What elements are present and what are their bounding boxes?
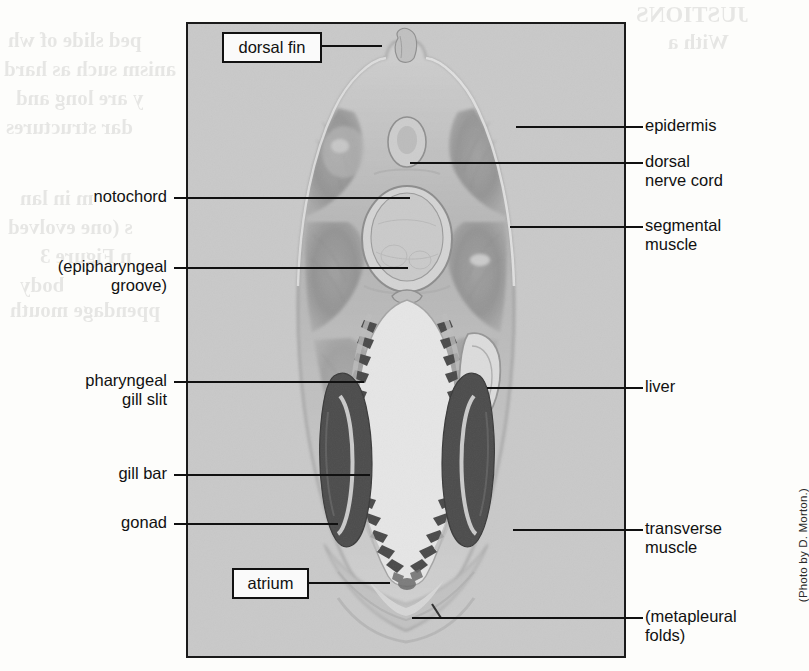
- showthrough-text: JUSTIONS: [636, 2, 748, 28]
- leader-epipharyngeal-groove: [174, 267, 408, 269]
- leader-dorsal-nerve-cord: [410, 162, 643, 164]
- leader-epidermis: [516, 126, 643, 128]
- showthrough-text: ped slide of wh: [8, 28, 142, 53]
- showthrough-text: anism such as hard: [4, 57, 176, 82]
- label-transverse-muscle[interactable]: transverse muscle: [645, 519, 795, 557]
- label-atrium[interactable]: atrium: [232, 568, 309, 599]
- label-liver[interactable]: liver: [645, 377, 795, 396]
- leader-notochord: [174, 197, 410, 199]
- label-notochord[interactable]: notochord: [20, 187, 167, 206]
- leader-segmental-muscle: [510, 226, 643, 228]
- label-pharyngeal-gill-slit[interactable]: pharyngeal gill slit: [30, 371, 167, 409]
- label-epipharyngeal-groove[interactable]: (epipharyngeal groove): [4, 257, 167, 295]
- showthrough-text: ppendage mouth: [10, 298, 160, 323]
- label-epidermis[interactable]: epidermis: [645, 116, 795, 135]
- leader-dorsal-fin: [320, 45, 382, 47]
- label-metapleural-folds[interactable]: (metapleural folds): [645, 607, 797, 645]
- leader-liver: [487, 387, 643, 389]
- label-gill-bar[interactable]: gill bar: [50, 464, 167, 483]
- label-gonad[interactable]: gonad: [55, 513, 167, 532]
- showthrough-text: dar structures: [6, 115, 133, 140]
- photo-credit: (Photo by D. Morton.): [797, 488, 809, 602]
- specimen-photograph: [186, 22, 626, 658]
- label-dorsal-fin[interactable]: dorsal fin: [222, 32, 322, 63]
- showthrough-text: y are long and: [16, 86, 143, 111]
- leader-transverse-muscle: [513, 529, 643, 531]
- leader-gonad: [174, 523, 338, 525]
- leader-gill-bar: [174, 474, 370, 476]
- label-dorsal-nerve-cord[interactable]: dorsal nerve cord: [645, 152, 795, 190]
- leader-pharyngeal-gill-slit: [174, 381, 364, 383]
- showthrough-text: With a: [668, 30, 729, 55]
- leader-metapleural-folds: [412, 617, 643, 619]
- amphioxus-cross-section-svg: [188, 24, 624, 656]
- leader-atrium: [307, 582, 390, 584]
- showthrough-text: s (one evolved: [8, 215, 133, 240]
- label-segmental-muscle[interactable]: segmental muscle: [645, 216, 795, 254]
